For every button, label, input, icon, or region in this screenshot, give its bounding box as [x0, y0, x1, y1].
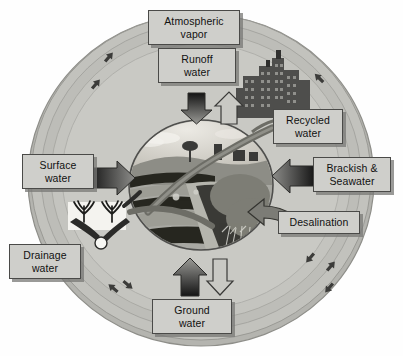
label-atmospheric-vapor[interactable]: Atmospheric vapor	[148, 10, 240, 45]
label-drainage-water[interactable]: Drainage water	[9, 244, 81, 279]
label-desalination[interactable]: Desalination	[278, 211, 360, 234]
label-surface-water[interactable]: Surface water	[22, 154, 94, 189]
label-ground-water[interactable]: Ground water	[152, 299, 232, 334]
label-runoff-water[interactable]: Runoff water	[158, 48, 236, 83]
label-brackish-seawater[interactable]: Brackish & Seawater	[313, 157, 391, 192]
label-recycled-water[interactable]: Recycled water	[273, 109, 343, 144]
